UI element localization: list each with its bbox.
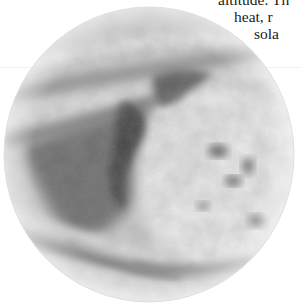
document-page: altitude. Th heat, r sola xyxy=(0,0,302,307)
planet-photograph xyxy=(3,6,295,303)
planet-image xyxy=(3,6,295,303)
